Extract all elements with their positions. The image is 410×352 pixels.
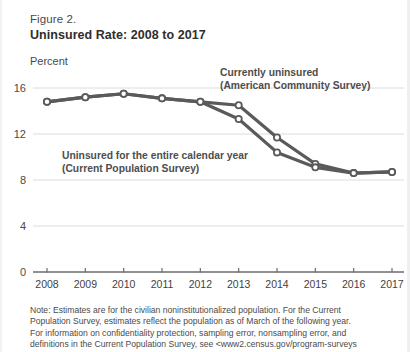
note-line-4: definitions in the Current Population Su… [30, 339, 402, 350]
data-point-marker [197, 99, 203, 105]
data-point-marker [121, 91, 127, 97]
data-point-marker [274, 134, 280, 140]
y-tick-label: 8 [2, 174, 26, 186]
x-tick-label: 2008 [35, 278, 58, 290]
x-tick-label: 2016 [342, 278, 365, 290]
x-tick-label: 2011 [151, 278, 174, 290]
data-point-marker [274, 149, 280, 155]
data-point-marker [236, 102, 242, 108]
x-tick-label: 2014 [265, 278, 288, 290]
figure-note: Note: Estimates are for the civilian non… [30, 305, 402, 351]
x-tick-label: 2009 [74, 278, 97, 290]
annotation-cps-line1: Uninsured for the entire calendar year [62, 150, 248, 163]
x-tick-label: 2017 [380, 278, 403, 290]
note-line-2: Population Survey, estimates reflect the… [30, 316, 402, 327]
data-point-marker [389, 169, 395, 175]
y-tick-label: 0 [2, 266, 26, 278]
y-tick-label: 4 [2, 220, 26, 232]
data-point-marker [159, 95, 165, 101]
note-line-1: Note: Estimates are for the civilian non… [30, 305, 402, 316]
x-tick-label: 2012 [189, 278, 212, 290]
annotation-entire-year-uninsured: Uninsured for the entire calendar year (… [62, 150, 248, 175]
data-point-marker [312, 164, 318, 170]
annotation-acs-line1: Currently uninsured [220, 67, 371, 80]
figure-page: Figure 2. Uninsured Rate: 2008 to 2017 P… [0, 0, 410, 352]
annotation-cps-line2: (Current Population Survey) [62, 163, 248, 176]
note-line-3: For information on confidentiality prote… [30, 328, 402, 339]
data-point-marker [236, 116, 242, 122]
annotation-currently-uninsured: Currently uninsured (American Community … [220, 67, 371, 92]
data-point-marker [44, 99, 50, 105]
x-tick-label: 2013 [227, 278, 250, 290]
y-tick-label: 16 [2, 82, 26, 94]
y-tick-label: 12 [2, 128, 26, 140]
x-tick-label: 2010 [112, 278, 135, 290]
x-tick-label: 2015 [304, 278, 327, 290]
annotation-acs-line2: (American Community Survey) [220, 80, 371, 93]
data-point-marker [351, 170, 357, 176]
data-point-marker [82, 94, 88, 100]
